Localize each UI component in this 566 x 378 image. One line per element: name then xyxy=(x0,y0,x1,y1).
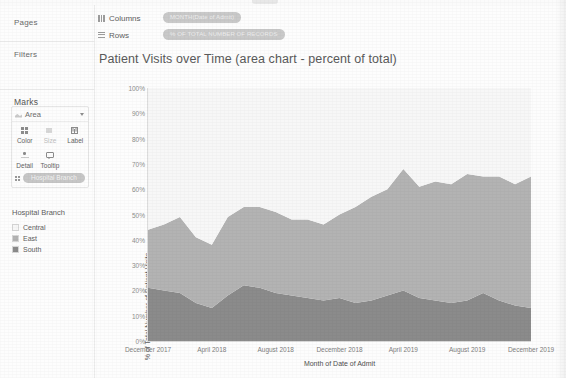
x-tick-label: December 2017 xyxy=(125,346,171,353)
tableau-worksheet: Pages Filters Marks Area Color Size xyxy=(0,0,566,378)
area-mark-icon xyxy=(15,111,22,118)
y-tick-label: 60% xyxy=(105,186,145,193)
y-tick-label: 90% xyxy=(105,110,145,117)
shelf-divider-2 xyxy=(0,89,94,90)
y-tick-label: 100% xyxy=(105,85,145,92)
columns-shelf-label: Columns xyxy=(109,14,141,23)
color-legend: Hospital Branch Central East South xyxy=(12,208,90,255)
legend-swatch-central xyxy=(12,224,19,231)
x-axis-ticks: December 2017April 2018August 2018Decemb… xyxy=(148,344,531,358)
rows-grid-icon xyxy=(98,32,105,39)
marks-size-label: Size xyxy=(44,137,57,144)
marks-card: Area Color Size Label xyxy=(11,106,89,188)
y-tick-label: 10% xyxy=(105,312,145,319)
marks-label-label: Label xyxy=(67,137,83,144)
color-icon xyxy=(20,126,29,135)
legend-item-central[interactable]: Central xyxy=(12,222,90,233)
scan-artifact-nub xyxy=(252,0,278,4)
y-tick-label: 40% xyxy=(105,236,145,243)
legend-label-south: South xyxy=(23,246,41,253)
mark-type-dropdown[interactable]: Area xyxy=(12,107,88,122)
marks-size-button[interactable]: Size xyxy=(37,126,62,144)
marks-encoding-row-1: Color Size Label xyxy=(12,122,88,147)
tooltip-icon xyxy=(45,151,54,160)
rows-shelf[interactable]: Rows xyxy=(98,29,129,41)
legend-label-central: Central xyxy=(23,224,46,231)
rows-field-pill[interactable]: % OF TOTAL NUMBER OF RECORDS xyxy=(163,29,285,40)
label-icon xyxy=(71,126,80,135)
x-tick-label: April 2019 xyxy=(389,346,418,353)
marks-color-pill[interactable]: Hospital Branch xyxy=(23,173,85,183)
left-shelf-panel: Pages Filters Marks Area Color Size xyxy=(0,5,95,378)
columns-shelf[interactable]: Columns xyxy=(98,12,141,24)
chart-plot-area[interactable] xyxy=(148,88,531,341)
marks-label-button[interactable]: Label xyxy=(63,126,88,144)
mark-type-value: Area xyxy=(25,110,41,119)
drag-grip-icon xyxy=(15,175,21,182)
marks-color-pill-row: Hospital Branch xyxy=(12,172,88,187)
y-tick-label: 70% xyxy=(105,160,145,167)
legend-swatch-south xyxy=(12,246,19,253)
marks-detail-button[interactable]: Detail xyxy=(12,151,37,169)
rows-shelf-label: Rows xyxy=(109,31,129,40)
detail-icon xyxy=(20,151,29,160)
chevron-down-icon xyxy=(80,113,84,116)
columns-field-pill[interactable]: MONTH(Date of Admit) xyxy=(163,12,241,23)
pages-shelf-label[interactable]: Pages xyxy=(14,18,38,27)
x-tick-label: December 2018 xyxy=(316,346,362,353)
chart-title: Patient Visits over Time (area chart - p… xyxy=(99,52,397,66)
x-axis-title: Month of Date of Admit xyxy=(148,360,531,367)
legend-item-east[interactable]: East xyxy=(12,233,90,244)
marks-tooltip-label: Tooltip xyxy=(41,162,60,169)
y-tick-label: 80% xyxy=(105,135,145,142)
y-tick-label: 0% xyxy=(105,338,145,345)
marks-tooltip-button[interactable]: Tooltip xyxy=(37,151,62,169)
x-tick-label: December 2019 xyxy=(508,346,554,353)
x-axis-line xyxy=(148,341,531,342)
legend-item-south[interactable]: South xyxy=(12,244,90,255)
legend-label-east: East xyxy=(23,235,37,242)
x-tick-label: April 2018 xyxy=(197,346,226,353)
shelf-divider-1 xyxy=(0,41,94,42)
x-tick-label: August 2018 xyxy=(257,346,294,353)
marks-detail-label: Detail xyxy=(16,162,33,169)
y-tick-label: 30% xyxy=(105,262,145,269)
marks-color-label: Color xyxy=(17,137,33,144)
size-icon xyxy=(45,126,54,135)
stacked-area-chart xyxy=(148,88,531,341)
page-edge-shadow xyxy=(556,0,566,378)
legend-title: Hospital Branch xyxy=(12,208,90,217)
filters-shelf-label[interactable]: Filters xyxy=(14,50,37,59)
y-tick-label: 20% xyxy=(105,287,145,294)
legend-swatch-east xyxy=(12,235,19,242)
y-axis-ticks: 0%10%20%30%40%50%60%70%80%90%100% xyxy=(105,82,145,347)
x-tick-label: August 2019 xyxy=(449,346,486,353)
marks-spacer xyxy=(63,151,88,169)
marks-encoding-row-2: Detail Tooltip xyxy=(12,147,88,172)
marks-color-button[interactable]: Color xyxy=(12,126,37,144)
columns-grid-icon xyxy=(98,15,105,22)
y-tick-label: 50% xyxy=(105,211,145,218)
